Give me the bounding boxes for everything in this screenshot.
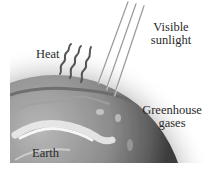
greenhouse-gases-label-line2: gases	[136, 117, 208, 130]
visible-sunlight-label-line2: sunlight	[140, 34, 202, 47]
greenhouse-diagram: Visible sunlight Heat Greenhouse gases E…	[0, 0, 209, 171]
earth-label: Earth	[32, 147, 66, 160]
heat-label: Heat	[36, 48, 66, 61]
greenhouse-gases-label: Greenhouse gases	[136, 104, 208, 130]
visible-sunlight-label: Visible sunlight	[140, 21, 202, 47]
